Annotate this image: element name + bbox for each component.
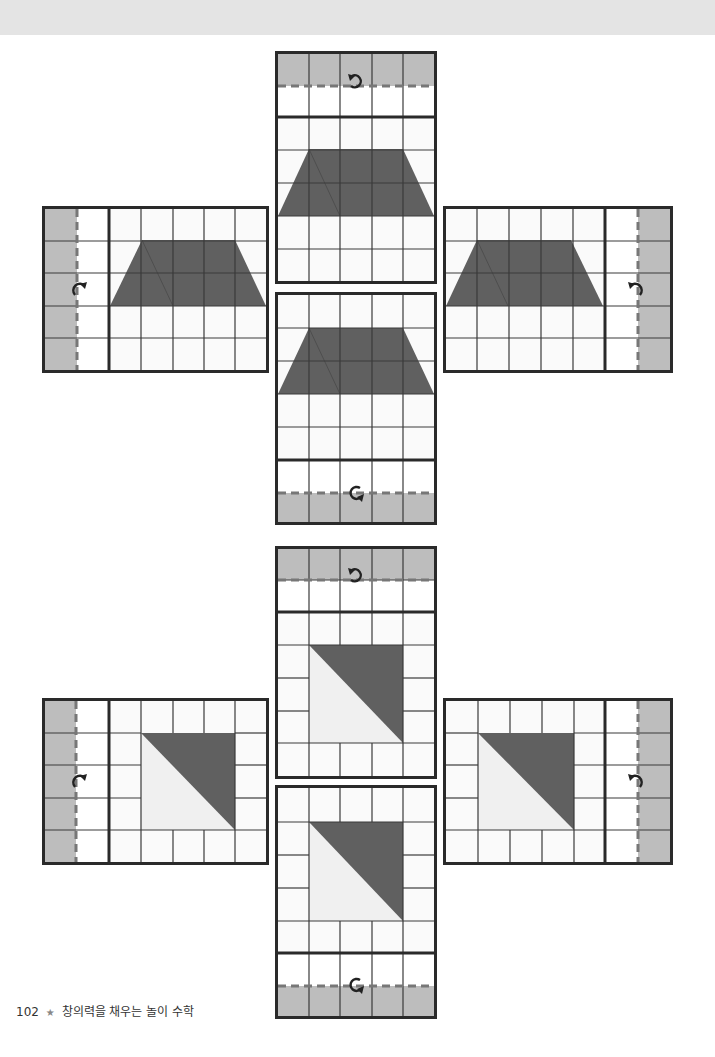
fold-flap [278,493,434,522]
fold-flap [278,549,434,580]
triangle-left-card[interactable] [42,698,269,865]
triangle-right-card[interactable] [443,698,673,865]
trapezoid-bottom-card-art [278,295,434,522]
header-band [0,0,715,35]
trapezoid-top-card[interactable] [275,51,437,284]
trapezoid-top-card-art [278,54,434,281]
triangle-left-card-art [45,701,266,862]
trapezoid-left-card-art [45,209,266,370]
star-icon: ★ [46,1007,55,1018]
triangle-bottom-card[interactable] [275,785,437,1019]
fold-flap [45,701,76,862]
trapezoid-bottom-card[interactable] [275,292,437,525]
triangle-bottom-card-art [278,788,434,1016]
triangle-top-card-art [278,549,434,776]
book-title: 창의력을 채우는 놀이 수학 [62,1005,194,1019]
trapezoid-right-card-art [446,209,670,370]
page-number: 102 [16,1005,39,1019]
trapezoid-left-card[interactable] [42,206,269,373]
triangle-top-card[interactable] [275,546,437,779]
fold-flap [278,54,434,86]
trapezoid-right-card[interactable] [443,206,673,373]
triangle-right-card-art [446,701,670,862]
page-footer: 102 ★ 창의력을 채우는 놀이 수학 [16,1002,194,1019]
